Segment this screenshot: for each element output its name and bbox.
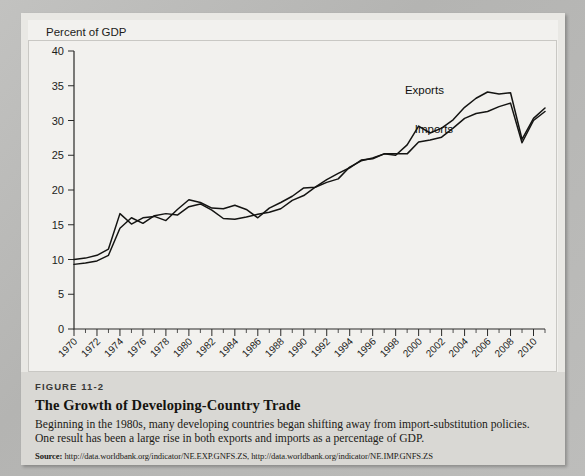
x-tick-label: 1972	[79, 335, 103, 359]
x-axis: 1970197219741976197819801982198419861988…	[56, 329, 545, 359]
figure-description: Beginning in the 1980s, many developing …	[35, 418, 547, 446]
source-urls: http://data.worldbank.org/indicator/NE.E…	[64, 451, 433, 461]
x-tick-label: 1986	[240, 335, 264, 359]
y-tick-label: 25	[52, 149, 64, 161]
x-tick-label: 1996	[355, 335, 379, 359]
series-annotations: ExportsImports	[405, 84, 453, 135]
x-tick-label: 1992	[309, 335, 333, 359]
series-line-imports	[74, 103, 545, 264]
y-tick-label: 5	[58, 288, 64, 300]
series-line-exports	[74, 92, 545, 260]
x-tick-label: 1978	[148, 335, 172, 359]
y-tick-label: 0	[58, 323, 64, 335]
x-tick-label: 2010	[515, 335, 539, 359]
x-tick-label: 1990	[286, 335, 310, 359]
y-tick-label: 10	[52, 254, 64, 266]
y-tick-label: 20	[52, 184, 64, 196]
axis-lines	[74, 51, 545, 329]
figure-title: The Growth of Developing-Country Trade	[35, 397, 551, 414]
plot-frame	[29, 41, 557, 372]
y-tick-label: 40	[52, 45, 64, 57]
series-label-imports: Imports	[415, 123, 454, 135]
x-tick-label: 1980	[171, 335, 195, 359]
x-tick-label: 2008	[492, 335, 516, 359]
figure-card: Percent of GDP 0510152025303540 19701972…	[21, 13, 565, 465]
figure-source: Source: http://data.worldbank.org/indica…	[35, 451, 551, 461]
y-axis: 0510152025303540	[52, 45, 74, 335]
x-tick-label: 1984	[217, 335, 241, 359]
x-tick-label: 1982	[194, 335, 218, 359]
x-tick-label: 2004	[446, 335, 470, 359]
figure-caption-block: FIGURE 11-2 The Growth of Developing-Cou…	[21, 372, 565, 465]
y-tick-label: 35	[52, 80, 64, 92]
x-tick-label: 1974	[102, 335, 126, 359]
x-tick-label: 1998	[378, 335, 402, 359]
x-tick-label: 1976	[125, 335, 149, 359]
data-series-group	[74, 92, 545, 264]
source-label: Source:	[35, 451, 62, 461]
figure-number: FIGURE 11-2	[35, 381, 551, 392]
x-tick-label: 1994	[332, 335, 356, 359]
x-tick-label: 2006	[469, 335, 493, 359]
x-tick-label: 2000	[401, 335, 425, 359]
x-tick-label: 1988	[263, 335, 287, 359]
y-tick-label: 30	[52, 115, 64, 127]
page-background: Percent of GDP 0510152025303540 19701972…	[0, 0, 585, 476]
series-label-exports: Exports	[405, 84, 444, 96]
trade-growth-line-chart: Percent of GDP 0510152025303540 19701972…	[28, 20, 558, 372]
x-tick-label: 1970	[56, 335, 80, 359]
y-tick-label: 15	[52, 219, 64, 231]
chart-plot-area: Percent of GDP 0510152025303540 19701972…	[28, 20, 558, 372]
x-tick-label: 2002	[424, 335, 448, 359]
y-axis-title: Percent of GDP	[46, 26, 127, 38]
